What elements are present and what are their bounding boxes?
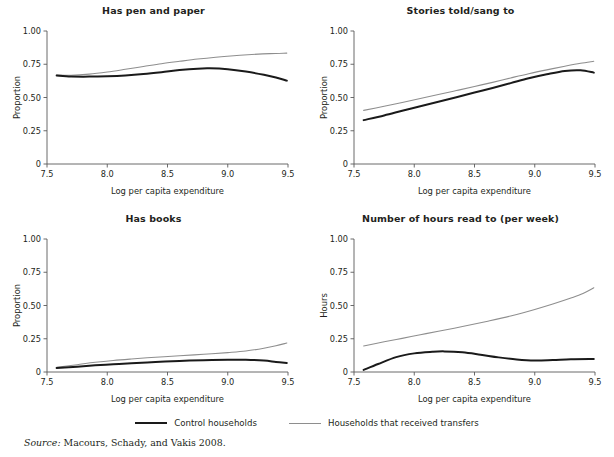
svg-text:9.5: 9.5 <box>281 377 294 387</box>
source-citation: Macours, Schady, and Vakis 2008. <box>61 437 226 448</box>
chart-legend: Control households Households that recei… <box>0 414 614 432</box>
svg-text:9.5: 9.5 <box>588 377 601 387</box>
svg-text:8.0: 8.0 <box>101 377 114 387</box>
plot-area: 00.250.500.751.007.58.08.59.09.5Log per … <box>0 0 307 208</box>
svg-text:Hours: Hours <box>319 293 329 318</box>
svg-text:1.00: 1.00 <box>23 26 41 36</box>
source-note: Source: Macours, Schady, and Vakis 2008. <box>24 437 226 448</box>
legend-line-swatch-transfers <box>289 423 321 424</box>
svg-text:9.5: 9.5 <box>588 169 601 179</box>
figure-multi-panel-chart: Has pen and paper 00.250.500.751.007.58.… <box>0 0 614 457</box>
svg-text:Log per capita expenditure: Log per capita expenditure <box>418 186 531 196</box>
svg-text:8.0: 8.0 <box>408 169 421 179</box>
legend-label-control: Control households <box>174 418 257 428</box>
svg-text:0.75: 0.75 <box>330 59 348 69</box>
svg-text:0: 0 <box>343 367 348 377</box>
svg-text:0.75: 0.75 <box>23 59 41 69</box>
legend-line-swatch-control <box>135 422 167 424</box>
svg-text:0.25: 0.25 <box>23 334 41 344</box>
svg-text:7.5: 7.5 <box>347 169 360 179</box>
svg-text:0.25: 0.25 <box>23 126 41 136</box>
svg-text:1.00: 1.00 <box>23 234 41 244</box>
chart-panel-has-books: Has books 00.250.500.751.007.58.08.59.09… <box>0 208 307 416</box>
svg-text:8.5: 8.5 <box>161 169 174 179</box>
legend-item-transfer-households: Households that received transfers <box>289 418 479 428</box>
panel-grid: Has pen and paper 00.250.500.751.007.58.… <box>0 0 614 416</box>
svg-text:0.50: 0.50 <box>23 93 41 103</box>
svg-text:7.5: 7.5 <box>347 377 360 387</box>
svg-text:7.5: 7.5 <box>40 377 53 387</box>
svg-text:8.5: 8.5 <box>468 377 481 387</box>
chart-panel-stories-told-sang-to: Stories told/sang to 00.250.500.751.007.… <box>307 0 614 208</box>
svg-text:7.5: 7.5 <box>40 169 53 179</box>
svg-text:0.50: 0.50 <box>23 301 41 311</box>
svg-text:9.5: 9.5 <box>281 169 294 179</box>
legend-item-control-households: Control households <box>135 418 257 428</box>
svg-text:0: 0 <box>36 159 41 169</box>
svg-text:Proportion: Proportion <box>319 76 329 119</box>
svg-text:Proportion: Proportion <box>12 76 22 119</box>
plot-area: 00.250.500.751.007.58.08.59.09.5Log per … <box>307 0 614 208</box>
chart-panel-has-pen-and-paper: Has pen and paper 00.250.500.751.007.58.… <box>0 0 307 208</box>
svg-text:0.50: 0.50 <box>330 93 348 103</box>
svg-text:8.0: 8.0 <box>101 169 114 179</box>
chart-panel-hours-read-to: Number of hours read to (per week) 00.25… <box>307 208 614 416</box>
svg-text:Log per capita expenditure: Log per capita expenditure <box>418 394 531 404</box>
svg-text:9.0: 9.0 <box>221 377 234 387</box>
svg-text:0: 0 <box>343 159 348 169</box>
svg-text:9.0: 9.0 <box>528 169 541 179</box>
svg-text:0.25: 0.25 <box>330 334 348 344</box>
source-label: Source: <box>24 437 61 448</box>
svg-text:1.00: 1.00 <box>330 234 348 244</box>
svg-text:Proportion: Proportion <box>12 284 22 327</box>
svg-text:1.00: 1.00 <box>330 26 348 36</box>
plot-area: 00.250.500.751.007.58.08.59.09.5Log per … <box>0 208 307 416</box>
plot-area: 00.250.500.751.007.58.08.59.09.5Log per … <box>307 208 614 416</box>
svg-text:Log per capita expenditure: Log per capita expenditure <box>111 394 224 404</box>
svg-text:0.25: 0.25 <box>330 126 348 136</box>
svg-text:9.0: 9.0 <box>221 169 234 179</box>
svg-text:0.75: 0.75 <box>330 267 348 277</box>
legend-label-transfers: Households that received transfers <box>328 418 479 428</box>
svg-text:0.50: 0.50 <box>330 301 348 311</box>
svg-text:Log per capita expenditure: Log per capita expenditure <box>111 186 224 196</box>
svg-text:0.75: 0.75 <box>23 267 41 277</box>
svg-text:8.0: 8.0 <box>408 377 421 387</box>
svg-text:0: 0 <box>36 367 41 377</box>
svg-text:8.5: 8.5 <box>161 377 174 387</box>
svg-text:9.0: 9.0 <box>528 377 541 387</box>
svg-text:8.5: 8.5 <box>468 169 481 179</box>
